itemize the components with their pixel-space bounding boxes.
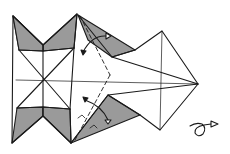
origami-diagram: Origami step: valley-fold flaps along da… <box>0 0 230 154</box>
turn-over-icon <box>190 121 218 136</box>
diagram-canvas <box>0 0 230 154</box>
